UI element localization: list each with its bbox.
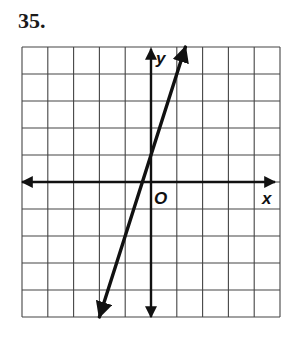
coordinate-plane: x y O <box>0 0 298 337</box>
origin-label: O <box>154 189 167 208</box>
axes <box>22 49 275 317</box>
y-axis-label: y <box>155 49 167 68</box>
x-axis-label: x <box>261 189 273 208</box>
